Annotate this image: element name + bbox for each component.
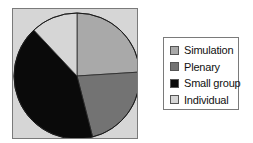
legend-item-plenary: Plenary — [170, 59, 238, 76]
legend-swatch — [170, 79, 179, 88]
legend-swatch — [170, 46, 179, 55]
legend-swatch — [170, 95, 179, 104]
legend-label: Simulation — [184, 44, 233, 56]
pie-slice-simulation — [77, 13, 137, 76]
legend-item-small-group: Small group — [170, 75, 238, 92]
legend-item-individual: Individual — [170, 92, 238, 109]
legend-label: Plenary — [184, 61, 220, 73]
legend-label: Small group — [184, 77, 241, 89]
legend: Simulation Plenary Small group Individua… — [163, 37, 239, 110]
pie-chart-area — [12, 8, 138, 139]
legend-item-simulation: Simulation — [170, 42, 238, 59]
legend-label: Individual — [184, 94, 228, 106]
pie-chart — [13, 9, 137, 138]
legend-swatch — [170, 62, 179, 71]
